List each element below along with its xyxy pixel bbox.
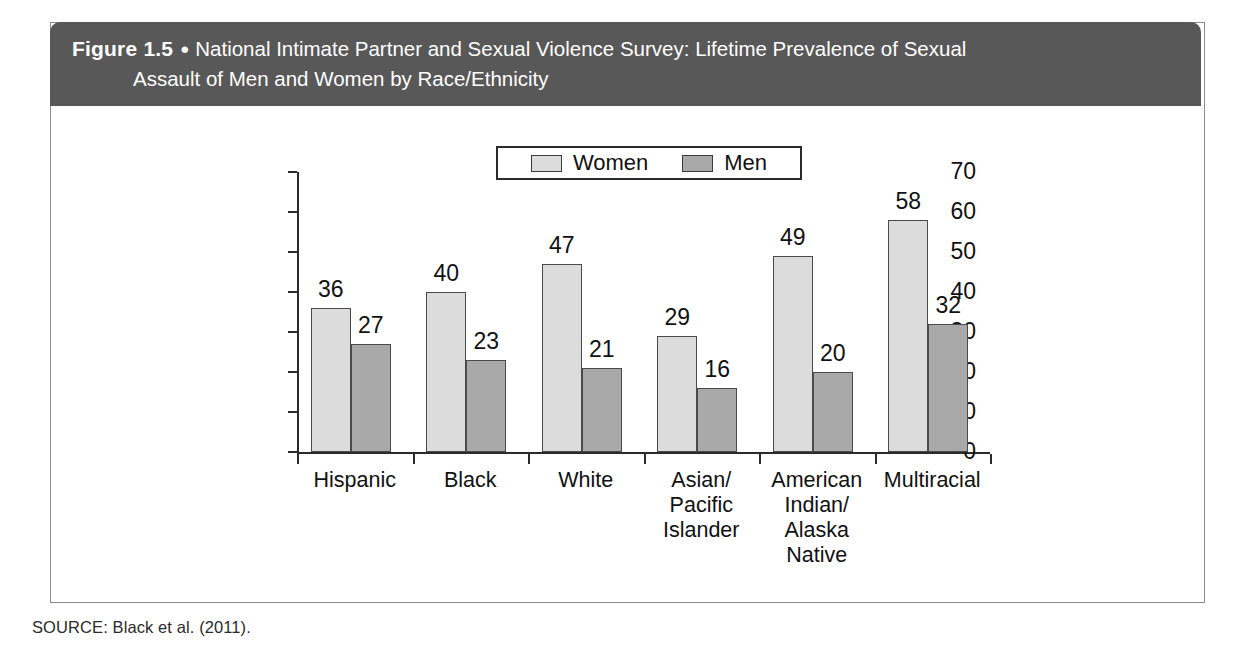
- bar-men: [697, 388, 737, 452]
- x-axis-tick: [297, 454, 299, 464]
- figure-caption-line-1: Figure 1.5●National Intimate Partner and…: [72, 34, 1183, 64]
- legend-swatch-men-icon: [682, 155, 713, 172]
- source-note: SOURCE: Black et al. (2011).: [32, 618, 251, 637]
- y-axis-tick: [288, 291, 297, 293]
- bar-value-label: 49: [759, 226, 827, 249]
- y-axis-tick: [288, 251, 297, 253]
- bar-women: [888, 220, 928, 452]
- bar-women: [426, 292, 466, 452]
- y-axis-tick: [288, 211, 297, 213]
- bar-value-label: 40: [412, 262, 480, 285]
- y-axis-tick: [288, 451, 297, 453]
- bar-value-label: 16: [683, 358, 751, 381]
- plot-region: 010203040506070 362740234721291649205832…: [297, 172, 990, 452]
- y-axis-tick: [288, 371, 297, 373]
- bar-value-label: 21: [568, 338, 636, 361]
- bar-men: [466, 360, 506, 452]
- x-axis-tick: [759, 454, 761, 464]
- bar-men: [351, 344, 391, 452]
- bar-value-label: 58: [874, 190, 942, 213]
- bar-value-label: 36: [297, 278, 365, 301]
- figure-title-line-2: Assault of Men and Women by Race/Ethnici…: [72, 64, 1183, 94]
- y-axis-tick: [288, 411, 297, 413]
- x-axis-tick: [644, 454, 646, 464]
- chart-area: Women Men 010203040506070 36274023472129…: [50, 106, 1205, 603]
- bar-men: [582, 368, 622, 452]
- y-axis-tick-label: 70: [916, 160, 976, 183]
- bar-men: [928, 324, 968, 452]
- bullet-icon: ●: [173, 40, 195, 57]
- figure-caption-header: Figure 1.5●National Intimate Partner and…: [50, 22, 1201, 106]
- y-axis-line: [297, 172, 299, 454]
- bar-men: [813, 372, 853, 452]
- bar-value-label: 32: [914, 294, 982, 317]
- figure-number: Figure 1.5: [72, 37, 173, 60]
- x-axis-tick: [990, 454, 992, 464]
- bar-value-label: 23: [452, 330, 520, 353]
- x-axis-tick: [413, 454, 415, 464]
- bar-value-label: 20: [799, 342, 867, 365]
- x-axis-tick: [528, 454, 530, 464]
- bar-value-label: 27: [337, 314, 405, 337]
- figure-title-line-1: National Intimate Partner and Sexual Vio…: [195, 37, 966, 60]
- bar-value-label: 47: [528, 234, 596, 257]
- legend-swatch-women-icon: [531, 155, 562, 172]
- x-axis-tick: [875, 454, 877, 464]
- y-axis-tick: [288, 171, 297, 173]
- bar-value-label: 29: [643, 306, 711, 329]
- category-label: Multiracial: [859, 468, 1007, 493]
- y-axis-tick: [288, 331, 297, 333]
- bar-women: [657, 336, 697, 452]
